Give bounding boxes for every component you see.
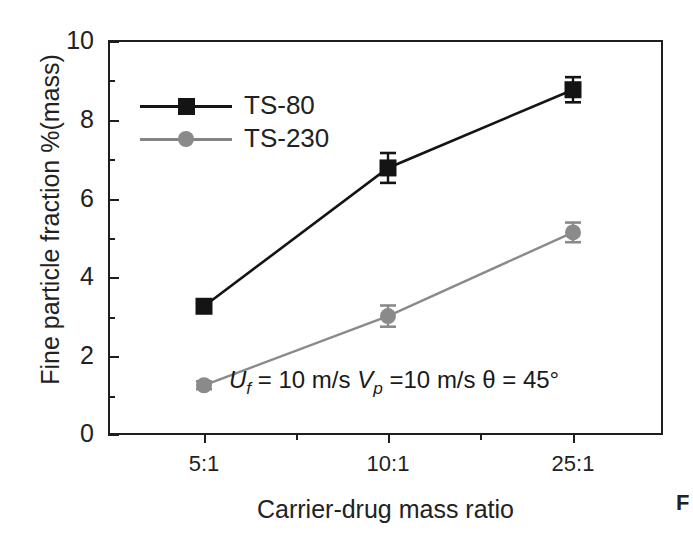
- data-point-square: [196, 298, 213, 315]
- data-point-square: [380, 159, 397, 176]
- annotation-v-value: =10 m/s: [383, 366, 482, 393]
- annotation-u-symbol: U: [229, 366, 246, 393]
- conditions-annotation: Uf = 10 m/s Vp =10 m/s θ = 45°: [229, 366, 559, 402]
- chart-figure: 10 8 6 4 2 0 5:1 10:1 25:1 Fine particle…: [0, 0, 693, 554]
- legend-label-ts-80: TS-80: [244, 90, 315, 121]
- data-series-layer: [0, 0, 693, 554]
- circle-marker-icon: [178, 131, 194, 147]
- data-point-circle: [565, 224, 581, 240]
- caption-fragment: F: [676, 490, 689, 516]
- data-point-circle: [196, 377, 212, 393]
- annotation-v-symbol: V: [357, 366, 373, 393]
- annotation-v-sub: p: [373, 378, 383, 398]
- annotation-theta: θ = 45°: [482, 366, 559, 393]
- annotation-u-value: = 10 m/s: [251, 366, 357, 393]
- legend-label-ts-230: TS-230: [244, 123, 329, 154]
- square-marker-icon: [178, 98, 195, 115]
- data-point-square: [565, 81, 582, 98]
- data-point-circle: [380, 308, 396, 324]
